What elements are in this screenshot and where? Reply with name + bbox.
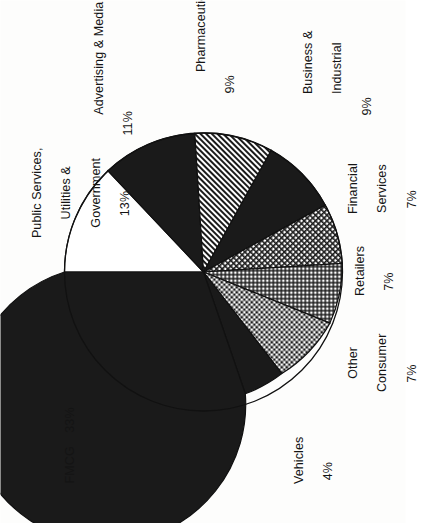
slice-label-business-industrial: Business & Industrial 9% [285, 30, 403, 115]
slice-value-public-services: 13% [117, 147, 132, 259]
slice-label-line: Utilities & [58, 166, 72, 219]
slice-value-fmcg: 33% [62, 407, 76, 432]
slice-label-line: Services [374, 164, 388, 213]
slice-label-public-services: Public Services, Utilities & Government … [14, 147, 162, 259]
slice-label-line: Public Services, [29, 147, 43, 238]
slice-label-line: Pharmaceuticals [193, 0, 207, 72]
slice-value-advertising-media: 11% [120, 1, 135, 135]
slice-value-financial-services: 7% [404, 163, 419, 235]
slice-value-business-industrial: 9% [359, 30, 374, 115]
slice-value-vehicles: 4% [320, 436, 335, 505]
slice-label-line: Consumer [374, 333, 388, 391]
slice-label-line: Financial [345, 163, 359, 214]
slice-label-line: Other [345, 346, 359, 378]
pie-slice-fmcg[interactable] [0, 272, 245, 523]
slice-label-vehicles: Vehicles 4% [276, 436, 365, 505]
slice-label-advertising-media: Advertising & Media 11% [76, 1, 165, 135]
slice-label-line: Advertising & Media [91, 1, 105, 114]
slice-label-fmcg: FMCG 33% [62, 407, 77, 483]
slice-label-line: Vehicles [291, 436, 305, 483]
slice-label-line: Industrial [329, 42, 343, 94]
slice-label-retailers: Retailers 7% [337, 245, 421, 317]
slice-value-other-consumer: 7% [404, 333, 419, 413]
slice-label-line: Business & [300, 30, 314, 94]
slice-value-retailers: 7% [381, 245, 396, 317]
slice-label-line: Government [88, 157, 102, 227]
slice-value-pharmaceuticals: 9% [222, 0, 237, 93]
slice-label-line: FMCG [62, 446, 76, 483]
slice-label-pharmaceuticals: Pharmaceuticals 9% [178, 0, 267, 93]
slice-label-other-consumer: Other Consumer 7% [330, 333, 421, 413]
slice-label-line: Retailers [352, 245, 366, 295]
slice-label-financial-services: Financial Services 7% [330, 163, 421, 235]
